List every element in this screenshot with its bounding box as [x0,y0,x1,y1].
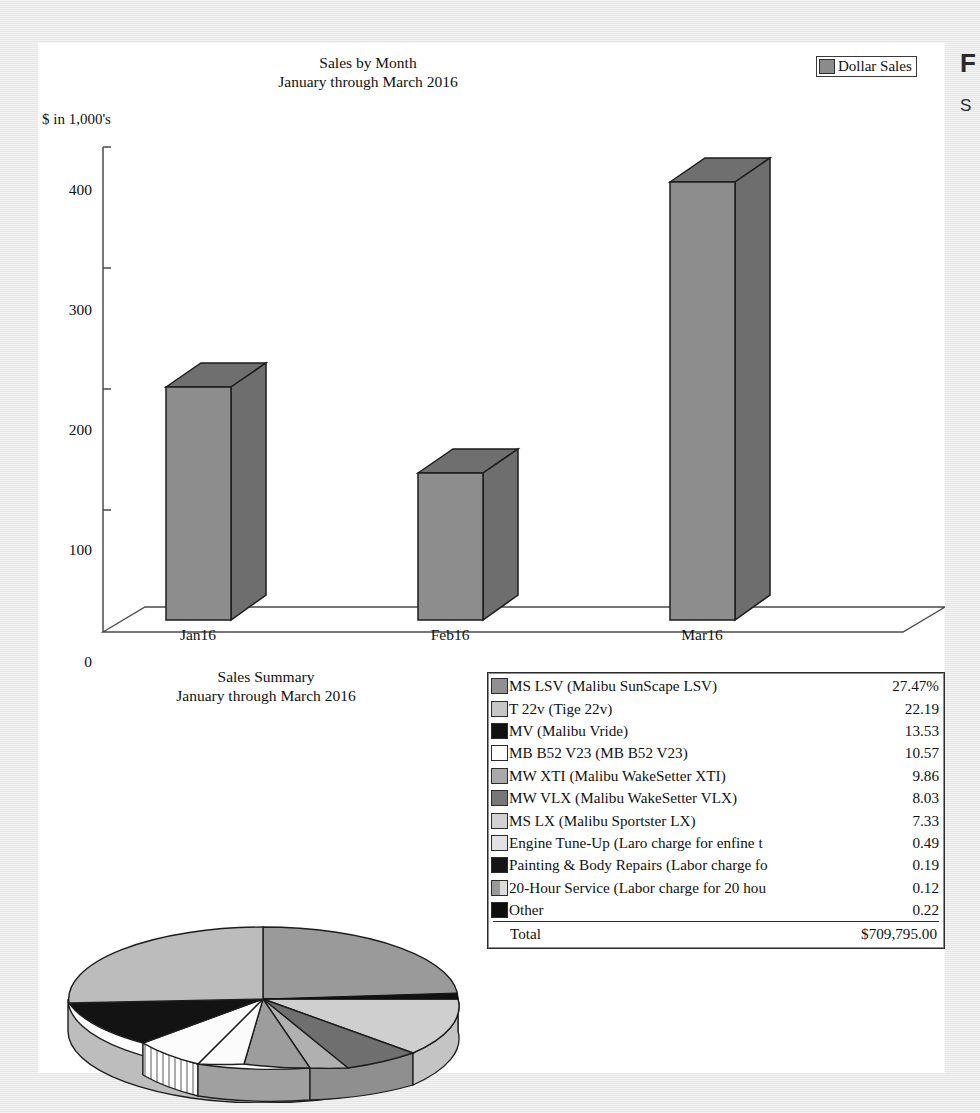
bar-plot-area [38,43,945,663]
item-label: MW VLX (Malibu WakeSetter VLX) [509,789,912,807]
item-label: Other [509,901,912,919]
table-row[interactable]: MS LX (Malibu Sportster LX) 7.33 [491,809,941,831]
legend-swatch [491,857,508,873]
table-total-row: Total $709,795.00 [493,921,939,945]
legend-swatch [491,768,508,784]
item-value: 9.86 [912,767,941,785]
table-row[interactable]: MV (Malibu Vride) 13.53 [491,720,941,742]
item-label: MW XTI (Malibu WakeSetter XTI) [509,767,912,785]
item-label: MB B52 V23 (MB B52 V23) [509,744,905,762]
item-value: 8.03 [912,789,941,807]
legend-swatch [491,745,508,761]
bar-chart: Sales by Month January through March 201… [38,43,945,663]
edge-panel-heading: F [960,48,980,79]
table-row[interactable]: MW XTI (Malibu WakeSetter XTI) 9.86 [491,765,941,787]
legend-swatch [491,790,508,806]
table-row[interactable]: T 22v (Tige 22v) 22.19 [491,697,941,719]
table-row[interactable]: Engine Tune-Up (Laro charge for enfine t… [491,832,941,854]
legend-swatch [491,678,508,694]
item-label: Painting & Body Repairs (Labor charge fo [509,856,912,874]
table-row[interactable]: MS LSV (Malibu SunScape LSV) 27.47% [491,675,941,697]
table-row[interactable]: MW VLX (Malibu WakeSetter VLX) 8.03 [491,787,941,809]
item-value: 0.22 [912,901,941,919]
legend-swatch [491,723,508,739]
legend-swatch [491,835,508,851]
legend-swatch [491,701,508,717]
legend-swatch [491,902,508,918]
item-value: 0.19 [912,856,941,874]
legend-swatch [491,813,508,829]
item-label: MS LX (Malibu Sportster LX) [509,812,912,830]
pie-chart [48,903,478,1103]
table-row[interactable]: Other 0.22 [491,899,941,921]
item-value: 0.49 [912,834,941,852]
table-row[interactable]: 20-Hour Service (Labor charge for 20 hou… [491,877,941,899]
table-row[interactable]: Painting & Body Repairs (Labor charge fo… [491,854,941,876]
item-label: MS LSV (Malibu SunScape LSV) [509,677,892,695]
item-value: 27.47% [892,677,941,695]
total-label: Total [493,925,861,943]
item-value: 22.19 [905,700,941,718]
pie-chart-title-line2: January through March 2016 [56,686,476,705]
pie-chart-svg [48,903,478,1103]
item-label: T 22v (Tige 22v) [509,700,905,718]
item-value: 13.53 [905,722,941,740]
x-tick-jan16: Jan16 [143,626,253,644]
report-page: Sales by Month January through March 201… [38,43,945,1073]
pie-slice-upper-left[interactable] [69,927,263,1003]
legend-swatch [491,880,508,896]
item-value: 10.57 [905,744,941,762]
pie-slice-ms-lsv[interactable] [263,927,458,999]
pie-chart-title: Sales Summary January through March 2016 [56,667,476,705]
x-tick-feb16: Feb16 [395,626,505,644]
x-tick-mar16: Mar16 [647,626,757,644]
sales-breakdown-table: MS LSV (Malibu SunScape LSV) 27.47% T 22… [487,672,945,949]
edge-panel-subtext: S [960,96,980,116]
pie-chart-title-line1: Sales Summary [56,667,476,686]
total-value: $709,795.00 [861,925,939,943]
item-value: 7.33 [912,812,941,830]
item-label: MV (Malibu Vride) [509,722,905,740]
item-value: 0.12 [912,879,941,897]
item-label: Engine Tune-Up (Laro charge for enfine t [509,834,912,852]
item-label: 20-Hour Service (Labor charge for 20 hou [509,879,912,897]
table-row[interactable]: MB B52 V23 (MB B52 V23) 10.57 [491,742,941,764]
